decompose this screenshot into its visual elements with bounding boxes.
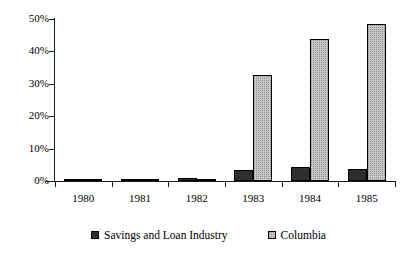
x-tick-mark: [55, 182, 56, 187]
bar-columbia-1984: [310, 39, 329, 181]
x-tick-label: 1982: [168, 192, 225, 204]
y-tick-label: 20%: [5, 110, 49, 121]
chart-legend: Savings and Loan Industry Columbia: [0, 229, 417, 241]
legend-swatch-icon: [91, 231, 99, 239]
y-tick-label: 40%: [5, 45, 49, 56]
x-tick-mark: [338, 182, 339, 187]
legend-swatch-icon: [268, 231, 276, 239]
x-tick-label: 1985: [338, 192, 395, 204]
plot-area: [55, 19, 395, 181]
y-tick-label: 10%: [5, 143, 49, 154]
bar-savings-and-loan-industry-1985: [348, 169, 367, 181]
x-tick-mark: [168, 182, 169, 187]
x-tick-label: 1980: [55, 192, 112, 204]
x-tick-mark: [225, 182, 226, 187]
bar-columbia-1985: [367, 24, 386, 181]
bar-columbia-1983: [253, 75, 272, 181]
x-tick-mark: [395, 182, 396, 187]
bar-chart-figure: 0%10%20%30%40%50% 1980198119821983198419…: [0, 0, 417, 270]
y-tick-label: 50%: [5, 13, 49, 24]
x-tick-label: 1983: [225, 192, 282, 204]
y-tick-label: 0%: [5, 175, 49, 186]
bar-savings-and-loan-industry-1981: [121, 179, 140, 181]
x-tick-mark: [112, 182, 113, 187]
x-axis-line: [45, 181, 396, 182]
y-tick-label: 30%: [5, 78, 49, 89]
bar-savings-and-loan-industry-1980: [64, 179, 83, 181]
x-tick-mark: [282, 182, 283, 187]
x-tick-label: 1984: [282, 192, 339, 204]
bar-columbia-1980: [83, 179, 102, 181]
legend-item-columbia[interactable]: Columbia: [268, 229, 326, 241]
bar-columbia-1982: [197, 179, 216, 181]
legend-item-label: Savings and Loan Industry: [104, 229, 228, 241]
bar-columbia-1981: [140, 179, 159, 181]
x-tick-label: 1981: [112, 192, 169, 204]
legend-item-savings-and-loan-industry[interactable]: Savings and Loan Industry: [91, 229, 228, 241]
bar-savings-and-loan-industry-1983: [234, 170, 253, 181]
bar-savings-and-loan-industry-1984: [291, 167, 310, 181]
bar-savings-and-loan-industry-1982: [178, 178, 197, 181]
legend-item-label: Columbia: [281, 229, 326, 241]
